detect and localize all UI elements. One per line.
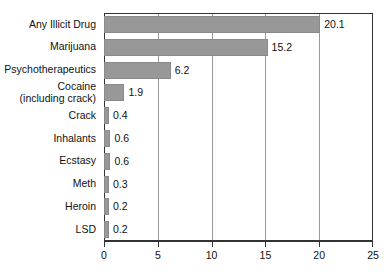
category-label: LSD	[0, 224, 96, 236]
category-label: Cocaine(including crack)	[0, 81, 96, 104]
category-label: Marijuana	[0, 41, 96, 53]
category-label: Crack	[0, 110, 96, 122]
category-label-line: Marijuana	[0, 41, 96, 53]
bar-value-label: 0.4	[113, 107, 128, 124]
x-tick-20	[319, 241, 320, 247]
category-label-line: Meth	[0, 178, 96, 190]
category-label-line: Inhalants	[0, 133, 96, 145]
x-axis-line	[104, 241, 373, 242]
category-label-line: Heroin	[0, 201, 96, 213]
bar	[104, 198, 109, 215]
bar-value-label: 0.2	[113, 198, 128, 215]
bar-value-label: 0.6	[114, 130, 129, 147]
x-tick-label: 5	[155, 249, 161, 261]
x-tick-10	[212, 241, 213, 247]
bar	[104, 16, 320, 33]
category-label-line: Crack	[0, 110, 96, 122]
category-label: Any Illicit Drug	[0, 19, 96, 31]
bar	[104, 153, 110, 170]
x-tick-25	[372, 241, 373, 247]
x-tick-5	[158, 241, 159, 247]
x-tick-0	[104, 241, 105, 247]
category-label: Inhalants	[0, 133, 96, 145]
bar-chart: Any Illicit DrugMarijuanaPsychotherapeut…	[0, 0, 390, 280]
category-axis-labels: Any Illicit DrugMarijuanaPsychotherapeut…	[0, 13, 100, 241]
bars-layer: 20.115.26.21.90.40.60.60.30.20.2	[104, 13, 373, 241]
bar	[104, 176, 109, 193]
category-label: Ecstasy	[0, 155, 96, 167]
category-label-line: Psychotherapeutics	[0, 64, 96, 76]
category-label-line: LSD	[0, 224, 96, 236]
bar-value-label: 0.6	[114, 153, 129, 170]
x-tick-label: 0	[101, 249, 107, 261]
bar	[104, 221, 109, 238]
bar-value-label: 0.3	[113, 176, 128, 193]
bar	[104, 62, 171, 79]
x-tick-label: 20	[313, 249, 325, 261]
x-tick-15	[265, 241, 266, 247]
bar-value-label: 20.1	[324, 16, 344, 33]
category-label: Psychotherapeutics	[0, 64, 96, 76]
category-label: Meth	[0, 178, 96, 190]
bar	[104, 107, 109, 124]
category-label: Heroin	[0, 201, 96, 213]
category-label-line: Any Illicit Drug	[0, 19, 96, 31]
bar-value-label: 15.2	[272, 39, 292, 56]
bar-value-label: 6.2	[175, 62, 190, 79]
category-label-line: (including crack)	[0, 93, 96, 105]
x-tick-label: 25	[367, 249, 379, 261]
bar	[104, 84, 124, 101]
x-tick-label: 10	[206, 249, 218, 261]
x-tick-label: 15	[260, 249, 272, 261]
bar-value-label: 0.2	[113, 221, 128, 238]
category-label-line: Ecstasy	[0, 155, 96, 167]
bar	[104, 130, 110, 147]
bar-value-label: 1.9	[128, 84, 143, 101]
bar	[104, 39, 268, 56]
